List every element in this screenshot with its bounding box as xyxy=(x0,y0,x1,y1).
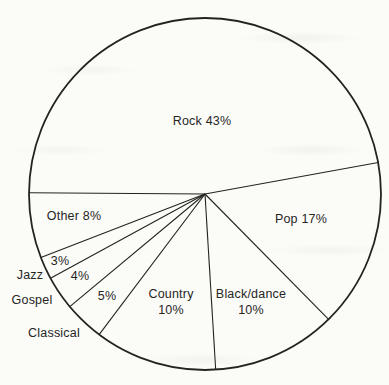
slice-label-jazz: Jazz xyxy=(17,268,44,282)
slice-boundary-line xyxy=(51,194,206,278)
slice-label-jazz-pct: 3% xyxy=(51,254,69,268)
slice-boundary-line xyxy=(29,193,205,194)
slice-label-black-dance-pct: 10% xyxy=(216,302,286,318)
slice-label-classical-pct: 5% xyxy=(98,289,116,303)
slice-label-pop: Pop 17% xyxy=(275,212,327,226)
slice-label-black-dance: Black/dance 10% xyxy=(216,286,286,318)
slice-label-classical: Classical xyxy=(28,326,80,340)
pie-chart-figure: Rock 43% Pop 17% Other 8% 3% Jazz 4% Gos… xyxy=(0,0,389,385)
slice-label-country-name: Country xyxy=(148,286,193,302)
slice-label-other: Other 8% xyxy=(47,209,101,223)
slice-label-black-dance-name: Black/dance xyxy=(216,286,286,302)
slice-label-country-pct: 10% xyxy=(148,302,193,318)
slice-label-rock: Rock 43% xyxy=(173,114,232,128)
slice-label-gospel: Gospel xyxy=(12,293,53,307)
slice-boundary-line xyxy=(205,194,216,370)
slice-boundary-line xyxy=(205,163,378,195)
slice-label-gospel-pct: 4% xyxy=(71,269,89,283)
slice-label-country: Country 10% xyxy=(148,286,193,318)
